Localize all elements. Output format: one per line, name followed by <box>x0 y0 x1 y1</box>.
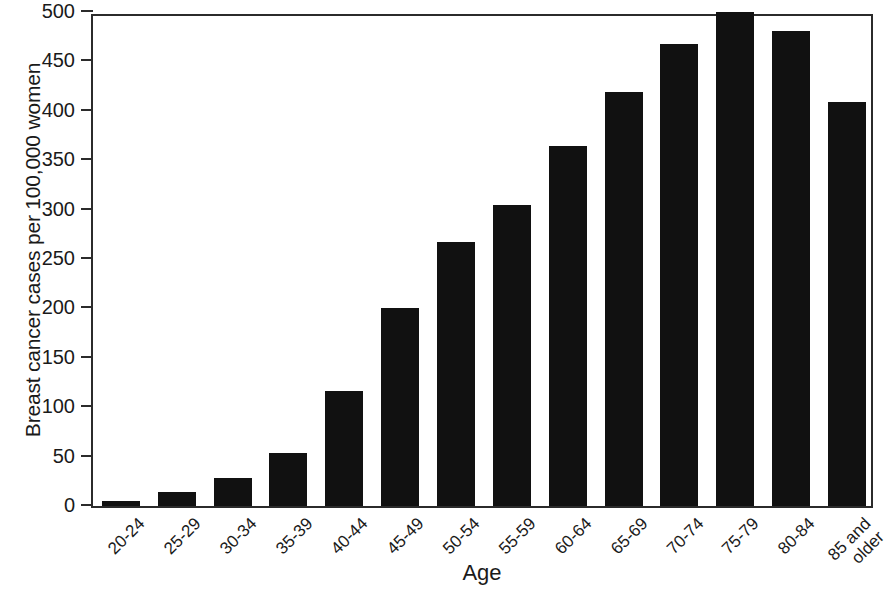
bar-slot <box>205 16 261 506</box>
y-axis-tick-label: 400 <box>42 100 75 120</box>
bar[interactable] <box>605 92 643 506</box>
bar-slot <box>540 16 596 506</box>
bar-slot <box>428 16 484 506</box>
bar-slot <box>652 16 708 506</box>
bar[interactable] <box>549 146 587 506</box>
bar-slot <box>261 16 317 506</box>
bar[interactable] <box>493 205 531 506</box>
bar-series <box>93 16 871 506</box>
y-axis-tick: 150 <box>81 356 93 358</box>
y-axis-tick-label: 150 <box>42 347 75 367</box>
bar[interactable] <box>437 242 475 506</box>
y-axis-tick-label: 500 <box>42 1 75 21</box>
y-axis-tick: 300 <box>81 208 93 210</box>
bar[interactable] <box>716 12 754 506</box>
bar-slot <box>316 16 372 506</box>
y-axis-tick: 250 <box>81 257 93 259</box>
y-axis-tick: 500 <box>81 10 93 12</box>
plot-area: 050100150200250300350400450500 <box>91 14 873 508</box>
x-axis-title: Age <box>91 560 873 586</box>
y-axis-tick-label: 450 <box>42 50 75 70</box>
bar[interactable] <box>828 102 866 506</box>
bar-slot <box>372 16 428 506</box>
bar-chart-figure: Breast cancer cases per 100,000 women 05… <box>0 0 885 596</box>
bar[interactable] <box>772 31 810 506</box>
bar[interactable] <box>158 492 196 506</box>
bar-slot <box>484 16 540 506</box>
bar-slot <box>819 16 875 506</box>
bar[interactable] <box>381 308 419 506</box>
bar[interactable] <box>102 501 140 506</box>
y-axis-tick: 0 <box>81 504 93 506</box>
y-axis-tick-label: 200 <box>42 297 75 317</box>
y-axis-tick-label: 100 <box>42 396 75 416</box>
y-axis-tick-label: 0 <box>64 495 75 515</box>
bar-slot <box>596 16 652 506</box>
y-axis-tick-label: 250 <box>42 248 75 268</box>
y-axis-tick-label: 350 <box>42 149 75 169</box>
y-axis-tick-label: 50 <box>53 446 75 466</box>
bar-slot <box>707 16 763 506</box>
bar[interactable] <box>269 453 307 506</box>
y-axis-tick: 50 <box>81 455 93 457</box>
bar-slot <box>763 16 819 506</box>
y-axis-tick: 400 <box>81 109 93 111</box>
y-axis-tick: 450 <box>81 59 93 61</box>
y-axis-tick: 100 <box>81 405 93 407</box>
bar-slot <box>149 16 205 506</box>
y-axis-tick: 350 <box>81 158 93 160</box>
y-axis-tick-label: 300 <box>42 199 75 219</box>
bar[interactable] <box>325 391 363 506</box>
bar[interactable] <box>660 44 698 506</box>
bar-slot <box>93 16 149 506</box>
bar[interactable] <box>214 478 252 506</box>
y-axis-tick: 200 <box>81 306 93 308</box>
